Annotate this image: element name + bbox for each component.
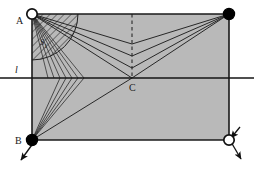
label-point-c: C (129, 83, 136, 93)
label-point-a: A (16, 16, 23, 26)
label-line-l: l (15, 65, 18, 75)
label-point-b: B (15, 136, 22, 146)
vertex-b-marker (26, 134, 37, 145)
label-sector-s1: S1 (40, 38, 47, 49)
vertex-a-marker (27, 9, 37, 19)
vertex-e-marker (224, 135, 234, 145)
vertex-d-marker (223, 8, 234, 19)
geometry-figure: A B C l S1 (0, 0, 261, 174)
sector-s1-subscript: 1 (44, 43, 47, 49)
